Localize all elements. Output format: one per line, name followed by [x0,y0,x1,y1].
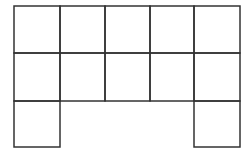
grid-cell [194,53,240,101]
grid-cell [60,6,105,53]
grid-cell [194,6,240,53]
grid-cell [105,53,150,101]
cell-grid-diagram [0,0,252,153]
grid-cell [14,6,60,53]
grid-cell [194,101,240,147]
grid-cell [60,53,105,101]
grid-cell [150,6,194,53]
grid-cell [14,101,60,147]
grid-cell [105,6,150,53]
grid-cell [14,53,60,101]
grid-cell [150,53,194,101]
